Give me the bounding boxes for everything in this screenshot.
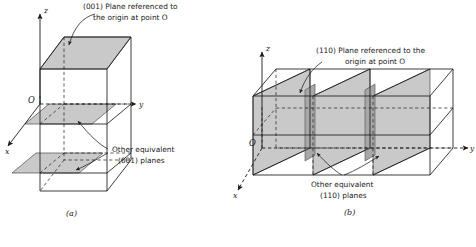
panel-b-caption: (b) bbox=[344, 208, 355, 217]
plane-001-bottom bbox=[12, 153, 103, 173]
panel-a-x-axis-label: x bbox=[5, 147, 10, 156]
panel-b-origin-label: O bbox=[249, 138, 256, 148]
panel-b-z-axis-label: z bbox=[265, 44, 271, 53]
panel-a-primary-callout-line1: (001) Plane referenced to bbox=[83, 2, 178, 11]
panel-b-y-axis-label: y bbox=[469, 144, 475, 153]
panel-a-equivalent-callout: Other equivalent (001) planes bbox=[76, 121, 174, 170]
panel-b-planes bbox=[253, 69, 430, 175]
panel-a-origin-label: O bbox=[28, 95, 35, 105]
panel-a-y-axis-label: y bbox=[138, 100, 144, 109]
panel-a-x-axis bbox=[8, 104, 40, 146]
plane-110-second bbox=[313, 69, 370, 175]
panel-b-primary-callout-line1: (110) Plane referenced to the bbox=[316, 46, 426, 55]
panel-b-x-axis-label: x bbox=[233, 191, 238, 200]
plane-110-third bbox=[373, 69, 430, 175]
panel-a-equivalent-callout-line1: Other equivalent bbox=[112, 145, 174, 154]
crystallographic-planes-figure: z y x O (001) Plane referenced to the or… bbox=[0, 0, 476, 247]
panel-a-primary-callout-line2: the origin at point O bbox=[93, 13, 168, 22]
panel-b-equivalent-callout-line2: (110) planes bbox=[320, 191, 367, 200]
panel-a-caption: (a) bbox=[66, 209, 77, 218]
plane-001-top bbox=[40, 37, 131, 69]
panel-b: z y x O (110) Plane referenced to the or… bbox=[233, 44, 475, 217]
panel-b-primary-callout-line2: origin at point O bbox=[345, 57, 405, 66]
panel-a-z-axis-label: z bbox=[43, 6, 49, 15]
panel-a-equivalent-callout-line2: (001) planes bbox=[118, 156, 165, 165]
panel-a-axes: z y x O bbox=[5, 6, 144, 156]
panel-a: z y x O (001) Plane referenced to the or… bbox=[5, 2, 178, 218]
plane-001-middle bbox=[25, 104, 116, 124]
panel-b-equivalent-callout-line1: Other equivalent bbox=[311, 180, 373, 189]
